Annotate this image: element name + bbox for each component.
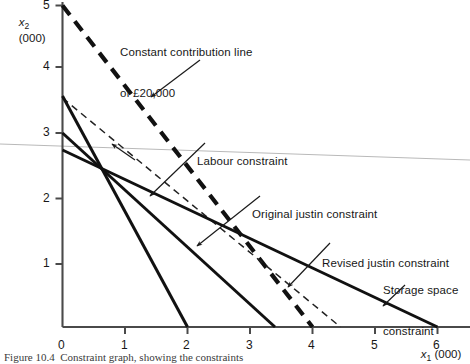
constraint-graph-figure: x2 (000) x1 (000) 5 4 3 2 1 0 1 2 3 4 5 … — [0, 0, 470, 364]
y-axis-units: (000) — [6, 20, 46, 56]
y-tick-label-5: 5 — [43, 0, 50, 12]
annotation-line-1: Storage space — [383, 284, 458, 298]
x-tick-label-2: 2 — [183, 338, 190, 352]
x-tick-label-0: 0 — [58, 338, 65, 352]
annotation-line-1: Original justin constraint — [252, 208, 377, 222]
series-line-labour-constraint — [63, 96, 188, 327]
y-tick-label-4: 4 — [43, 59, 50, 73]
x-tick-label-4: 4 — [308, 338, 315, 352]
annotation-line-2: constraint — [383, 325, 458, 339]
annotation-line-1: Labour constraint — [197, 155, 288, 169]
annotation-storage-space-constraint: Storage space constraint — [383, 257, 458, 364]
x-tick-label-3: 3 — [246, 338, 253, 352]
annotation-constant-contribution-line: Constant contribution line of £20,000 — [120, 19, 252, 127]
annotation-line-2: of £20,000 — [120, 87, 252, 101]
x-tick-label-1: 1 — [121, 338, 128, 352]
annotation-line-1: Constant contribution line — [120, 46, 252, 60]
y-tick-label-1: 1 — [43, 256, 50, 270]
y-tick-label-3: 3 — [43, 125, 50, 139]
figure-caption: Figure 10.4 Constraint graph, showing th… — [4, 351, 466, 364]
x-tick-label-5: 5 — [371, 338, 378, 352]
leader-labour-upper — [112, 144, 135, 160]
y-tick-label-2: 2 — [43, 191, 50, 205]
